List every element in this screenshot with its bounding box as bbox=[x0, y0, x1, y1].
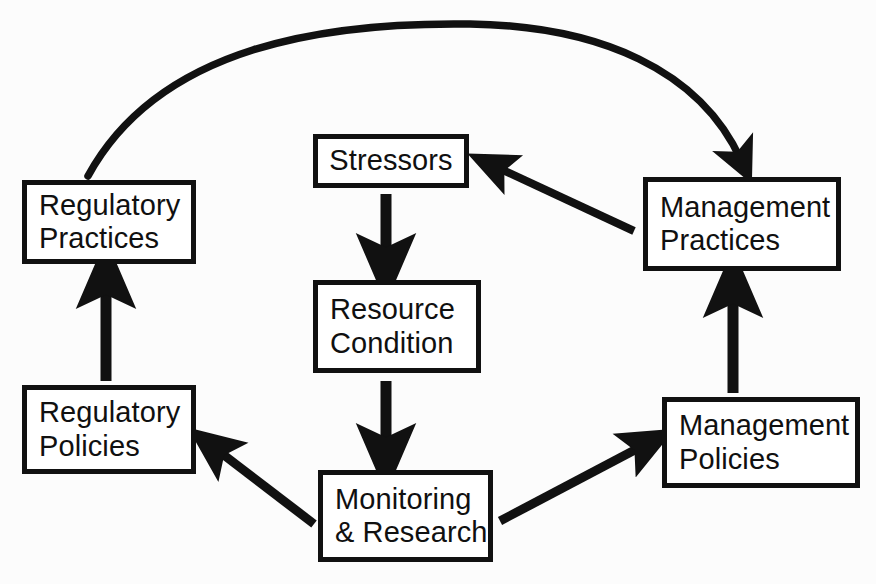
node-label-resource-condition: Resource Condition bbox=[318, 293, 455, 359]
node-management-policies[interactable]: Management Policies bbox=[662, 397, 860, 488]
node-monitoring-research[interactable]: Monitoring & Research bbox=[318, 470, 493, 562]
node-regulatory-policies[interactable]: Regulatory Policies bbox=[22, 385, 196, 474]
edge-management-practices-to-stressors bbox=[492, 165, 634, 231]
node-stressors[interactable]: Stressors bbox=[313, 134, 469, 188]
node-regulatory-practices[interactable]: Regulatory Practices bbox=[22, 180, 196, 264]
caption-fragment bbox=[0, 572, 876, 584]
node-label-management-practices: Management Practices bbox=[648, 191, 830, 257]
node-label-monitoring-research: Monitoring & Research bbox=[323, 483, 488, 549]
node-label-regulatory-policies: Regulatory Policies bbox=[27, 396, 180, 462]
node-management-practices[interactable]: Management Practices bbox=[643, 177, 841, 271]
node-label-stressors: Stressors bbox=[318, 144, 464, 177]
edge-monitoring-research-to-regulatory-policies bbox=[212, 446, 314, 524]
node-label-regulatory-practices: Regulatory Practices bbox=[27, 189, 180, 255]
edge-monitoring-research-to-management-policies bbox=[500, 443, 648, 521]
node-label-management-policies: Management Policies bbox=[667, 409, 849, 475]
node-resource-condition[interactable]: Resource Condition bbox=[313, 280, 481, 373]
diagram-canvas: Regulatory Practices Regulatory Policies… bbox=[0, 0, 876, 584]
